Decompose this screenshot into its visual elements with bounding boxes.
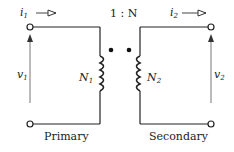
turns-ratio-label: 1 : N bbox=[110, 7, 138, 20]
secondary-polarity-dot bbox=[127, 48, 132, 53]
primary-caption: Primary bbox=[44, 130, 89, 143]
primary-coil bbox=[100, 56, 104, 91]
secondary-caption: Secondary bbox=[149, 130, 209, 143]
secondary-current-label: i2 bbox=[170, 6, 179, 20]
primary-bottom-terminal bbox=[27, 121, 33, 127]
secondary-circuit bbox=[127, 13, 214, 127]
primary-voltage-label: v1 bbox=[17, 68, 28, 82]
secondary-voltage-label: v2 bbox=[214, 68, 225, 82]
secondary-bottom-terminal bbox=[208, 121, 214, 127]
primary-turns-label: N1 bbox=[78, 71, 93, 85]
primary-top-terminal bbox=[27, 24, 33, 30]
primary-circuit bbox=[27, 13, 113, 127]
transformer-diagram: 1 : N i1 i2 v1 v2 N1 N2 Primary Secondar… bbox=[0, 0, 234, 152]
secondary-top-terminal bbox=[208, 24, 214, 30]
primary-polarity-dot bbox=[109, 48, 114, 53]
secondary-turns-label: N2 bbox=[146, 71, 162, 85]
secondary-coil bbox=[137, 56, 141, 91]
primary-current-label: i1 bbox=[20, 6, 28, 20]
